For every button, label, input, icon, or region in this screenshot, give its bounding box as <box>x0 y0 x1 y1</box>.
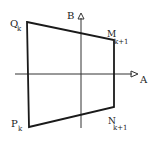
axis-label-b: B <box>67 10 74 21</box>
vertex-q-subscript: k <box>17 25 22 33</box>
vertical-axis <box>78 13 84 128</box>
vertex-p-label: P <box>11 118 18 129</box>
arrow-right-icon <box>131 71 138 77</box>
axis-label-a: A <box>139 74 148 85</box>
vertex-p-subscript: k <box>18 125 23 133</box>
vertex-n-subscript: k+1 <box>113 124 128 132</box>
vertex-m-subscript: k+1 <box>114 38 129 46</box>
diagram-canvas: A B Q k M k+1 N k+1 P k <box>0 0 155 144</box>
horizontal-axis <box>15 71 138 77</box>
